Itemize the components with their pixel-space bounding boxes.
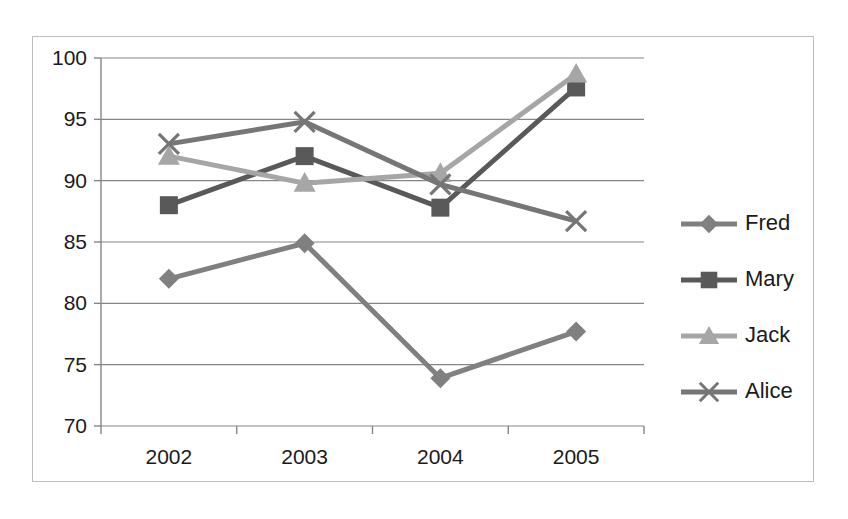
data-point-marker-triangle	[158, 145, 180, 165]
data-point-marker-triangle	[565, 63, 587, 83]
x-axis-tick-labels: 2002200320042005	[146, 445, 600, 468]
y-tick-label: 85	[64, 230, 87, 253]
y-tick-label: 100	[52, 46, 87, 69]
series-line-mary	[169, 87, 576, 207]
data-series-layer	[158, 63, 587, 388]
y-axis-tick-labels: 707580859095100	[52, 46, 87, 437]
data-point-marker-square	[701, 272, 718, 289]
legend-label: Fred	[745, 210, 790, 235]
y-tick-label: 75	[64, 353, 87, 376]
series-mary	[160, 78, 585, 216]
data-point-marker-square	[296, 147, 314, 165]
data-point-marker-square	[160, 196, 178, 214]
legend-label: Alice	[745, 378, 793, 403]
data-point-marker-square	[431, 199, 449, 217]
x-tick-label: 2002	[146, 445, 193, 468]
y-tick-label: 80	[64, 291, 87, 314]
chart-frame: 707580859095100 2002200320042005 FredMar…	[32, 36, 814, 482]
series-alice	[159, 112, 586, 231]
series-jack	[158, 63, 587, 192]
series-line-jack	[169, 74, 576, 183]
y-tick-label: 70	[64, 414, 87, 437]
chart-legend: FredMaryJackAlice	[681, 210, 794, 403]
line-chart: 707580859095100 2002200320042005 FredMar…	[33, 37, 813, 481]
x-tick-label: 2004	[417, 445, 464, 468]
data-point-marker-diamond	[700, 215, 718, 233]
x-tick-label: 2005	[553, 445, 600, 468]
series-line-alice	[169, 122, 576, 221]
legend-label: Mary	[745, 266, 794, 291]
legend-item-mary[interactable]: Mary	[681, 266, 794, 291]
legend-item-alice[interactable]: Alice	[681, 378, 793, 403]
data-point-marker-diamond	[159, 269, 179, 289]
series-line-fred	[169, 243, 576, 378]
legend-item-fred[interactable]: Fred	[681, 210, 790, 235]
y-tick-label: 95	[64, 107, 87, 130]
legend-item-jack[interactable]: Jack	[681, 322, 791, 347]
data-point-marker-diamond	[566, 322, 586, 342]
gridlines	[101, 58, 644, 426]
y-tick-label: 90	[64, 169, 87, 192]
x-tick-label: 2003	[281, 445, 328, 468]
legend-label: Jack	[745, 322, 791, 347]
axes	[94, 58, 644, 434]
